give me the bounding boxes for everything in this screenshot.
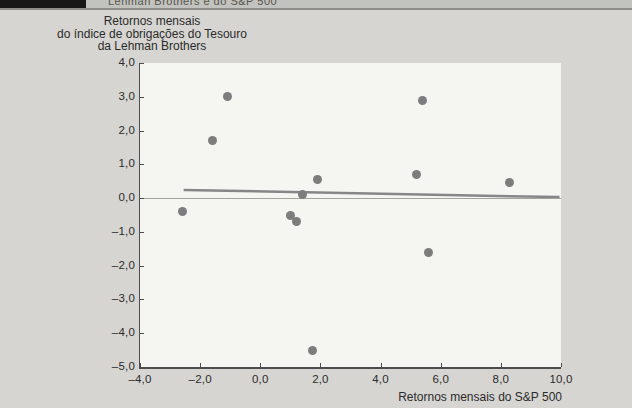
x-tick-label: –4,0: [118, 373, 162, 385]
y-tick-mark: [140, 97, 144, 98]
data-point: [223, 92, 232, 101]
trendline-layer: [140, 63, 561, 367]
x-tick-mark: [260, 363, 261, 367]
y-tick-mark: [140, 299, 144, 300]
x-tick-mark: [381, 363, 382, 367]
x-axis-label: Retornos mensais do S&P 500: [300, 390, 562, 404]
y-tick-label: 2,0: [91, 124, 135, 136]
regression-line: [184, 190, 560, 197]
y-tick-label: –4,0: [91, 326, 135, 338]
y-tick-label: –3,0: [91, 292, 135, 304]
y-tick-label: 0,0: [91, 191, 135, 203]
y-axis-title-line3: da Lehman Brothers: [32, 40, 272, 53]
data-point: [178, 207, 187, 216]
y-tick-label: –5,0: [91, 360, 135, 372]
y-tick-label: –2,0: [91, 259, 135, 271]
x-tick-mark: [501, 363, 502, 367]
y-tick-mark: [140, 232, 144, 233]
y-tick-label: 4,0: [91, 56, 135, 68]
plot-area: [139, 63, 561, 369]
x-tick-label: 0,0: [238, 373, 282, 385]
data-point: [308, 346, 317, 355]
x-tick-mark: [200, 363, 201, 367]
x-tick-label: 8,0: [479, 373, 523, 385]
x-tick-mark: [320, 363, 321, 367]
data-point: [313, 175, 322, 184]
y-tick-mark: [140, 266, 144, 267]
y-tick-mark: [140, 367, 144, 368]
x-tick-mark: [561, 363, 562, 367]
y-tick-mark: [140, 198, 144, 199]
data-point: [418, 96, 427, 105]
y-tick-mark: [140, 164, 144, 165]
data-point: [208, 136, 217, 145]
y-axis-title-line1: Retornos mensais: [32, 15, 272, 28]
x-tick-mark: [140, 363, 141, 367]
x-tick-label: 10,0: [539, 373, 583, 385]
y-tick-label: 3,0: [91, 90, 135, 102]
x-tick-mark: [441, 363, 442, 367]
scatter-chart: Retornos mensais do índice de obrigações…: [0, 0, 632, 408]
y-axis-title: Retornos mensais do índice de obrigações…: [32, 15, 272, 53]
y-tick-mark: [140, 131, 144, 132]
x-tick-label: 4,0: [359, 373, 403, 385]
y-tick-label: –1,0: [91, 225, 135, 237]
zero-gridline: [140, 198, 561, 199]
data-point: [424, 248, 433, 257]
x-tick-label: 6,0: [419, 373, 463, 385]
y-tick-label: 1,0: [91, 157, 135, 169]
y-tick-mark: [140, 63, 144, 64]
scanned-page: { "header": { "fragment": "Lehman Brothe…: [0, 0, 632, 408]
y-tick-mark: [140, 333, 144, 334]
x-tick-label: –2,0: [178, 373, 222, 385]
x-tick-label: 2,0: [298, 373, 342, 385]
